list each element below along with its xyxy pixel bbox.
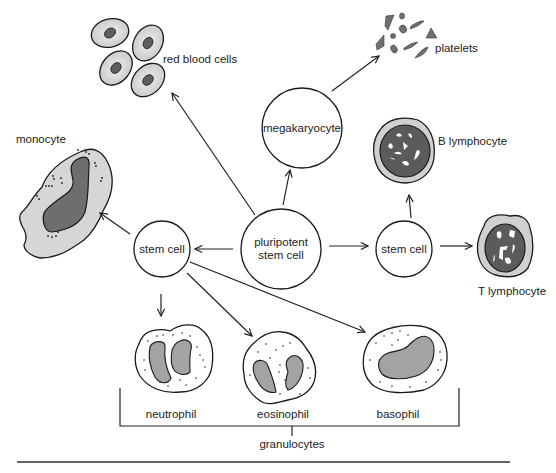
platelet <box>385 15 394 30</box>
eosinophil-cell: eosinophil <box>243 332 315 420</box>
red-blood-cells-group: red blood cells <box>88 15 237 104</box>
monocyte-cell: monocyte <box>16 133 112 258</box>
basophil-cell: basophil <box>363 326 447 421</box>
monocyte-label: monocyte <box>16 133 66 145</box>
platelet <box>410 21 424 29</box>
eosinophil-label: eosinophil <box>257 408 309 420</box>
stem-cell-right-node: stem cell <box>376 221 432 277</box>
arrow-left-stem-to-monocyte <box>100 213 130 234</box>
pluripotent-stem-cell-label-line2: stem cell <box>258 249 303 261</box>
stem-cell-left-label: stem cell <box>139 243 184 255</box>
b-lymphocyte-label: B lymphocyte <box>438 135 507 147</box>
platelet <box>400 13 405 19</box>
arrow-pluripotent-to-megakaryocyte <box>283 170 290 205</box>
neutrophil-label: neutrophil <box>146 408 197 420</box>
platelet <box>415 47 428 58</box>
platelet <box>376 35 384 50</box>
pluripotent-stem-cell-node: pluripotent stem cell <box>241 209 321 289</box>
platelets-label: platelets <box>435 42 478 54</box>
platelet <box>391 34 396 39</box>
platelet <box>398 24 408 34</box>
granulocytes-label: granulocytes <box>259 438 324 450</box>
megakaryocyte-label: megakaryocyte <box>263 122 341 134</box>
red-blood-cells-label: red blood cells <box>163 53 237 65</box>
platelet <box>390 44 399 54</box>
arrow-pluripotent-to-rbc <box>172 93 255 215</box>
arrow-right-stem-to-b-lymphocyte <box>409 195 411 218</box>
basophil-label: basophil <box>377 408 420 420</box>
pluripotent-stem-cell-label-line1: pluripotent <box>254 236 309 248</box>
platelet <box>426 28 437 38</box>
megakaryocyte-node: megakaryocyte <box>262 88 342 168</box>
blood-cell-lineage-diagram: red blood cells platelets monocyte <box>0 0 556 473</box>
t-lymphocyte-cell: T lymphocyte <box>477 215 546 297</box>
platelets-group: platelets <box>376 13 478 58</box>
arrow-megakaryocyte-to-platelets <box>332 56 379 91</box>
stem-cell-right-label: stem cell <box>381 243 426 255</box>
stem-cell-left-node: stem cell <box>134 221 190 277</box>
neutrophil-cell: neutrophil <box>135 325 212 420</box>
platelet <box>404 42 418 50</box>
red-blood-cell <box>88 15 132 52</box>
t-lymphocyte-label: T lymphocyte <box>478 285 546 297</box>
b-lymphocyte-cell: B lymphocyte <box>374 118 507 183</box>
